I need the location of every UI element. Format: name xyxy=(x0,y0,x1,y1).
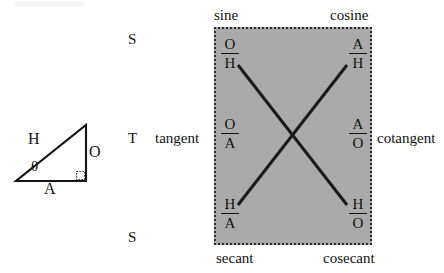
fraction-sine-numerator: O xyxy=(221,36,239,54)
fraction-cosine-numerator: A xyxy=(349,36,367,54)
label-secant: secant xyxy=(216,251,253,266)
fraction-tangent-numerator: O xyxy=(221,116,239,134)
fraction-cotangent-denominator: O xyxy=(349,134,367,151)
trig-mnemonic-diagram: H O A θ S T S tangent cotangent sine cos… xyxy=(0,0,444,273)
fraction-secant-denominator: A xyxy=(221,214,239,231)
fraction-sine-denominator: H xyxy=(221,54,239,71)
triangle-hypotenuse-label: H xyxy=(28,131,40,147)
label-cotangent: cotangent xyxy=(377,131,435,146)
label-cosine: cosine xyxy=(330,8,368,23)
row-letter-bottom-s: S xyxy=(128,230,136,245)
fraction-sine: O H xyxy=(221,36,239,71)
fraction-cosine: A H xyxy=(349,36,367,71)
ratio-box: O H A H O A A O H A H O xyxy=(214,27,372,245)
fraction-cotangent: A O xyxy=(349,116,367,151)
fraction-cosecant-numerator: H xyxy=(349,196,367,214)
triangle-outline-icon xyxy=(0,105,120,205)
fraction-secant: H A xyxy=(221,196,239,231)
fraction-cosecant-denominator: O xyxy=(349,214,367,231)
cross-lines-icon xyxy=(216,29,370,243)
label-cosecant: cosecant xyxy=(323,251,375,266)
label-sine: sine xyxy=(214,8,238,23)
fraction-cotangent-numerator: A xyxy=(349,116,367,134)
row-letter-middle-t: T xyxy=(128,131,137,146)
fraction-cosecant: H O xyxy=(349,196,367,231)
triangle-adjacent-label: A xyxy=(44,181,56,197)
triangle-theta-label: θ xyxy=(31,159,38,174)
label-tangent: tangent xyxy=(155,131,199,146)
row-letter-top-s: S xyxy=(128,32,136,47)
right-triangle-figure: H O A θ xyxy=(0,105,120,205)
fraction-cosine-denominator: H xyxy=(349,54,367,71)
triangle-opposite-label: O xyxy=(89,144,101,160)
fraction-tangent: O A xyxy=(221,116,239,151)
fraction-secant-numerator: H xyxy=(221,196,239,214)
fraction-tangent-denominator: A xyxy=(221,134,239,151)
page-edge-artifact xyxy=(14,1,84,7)
